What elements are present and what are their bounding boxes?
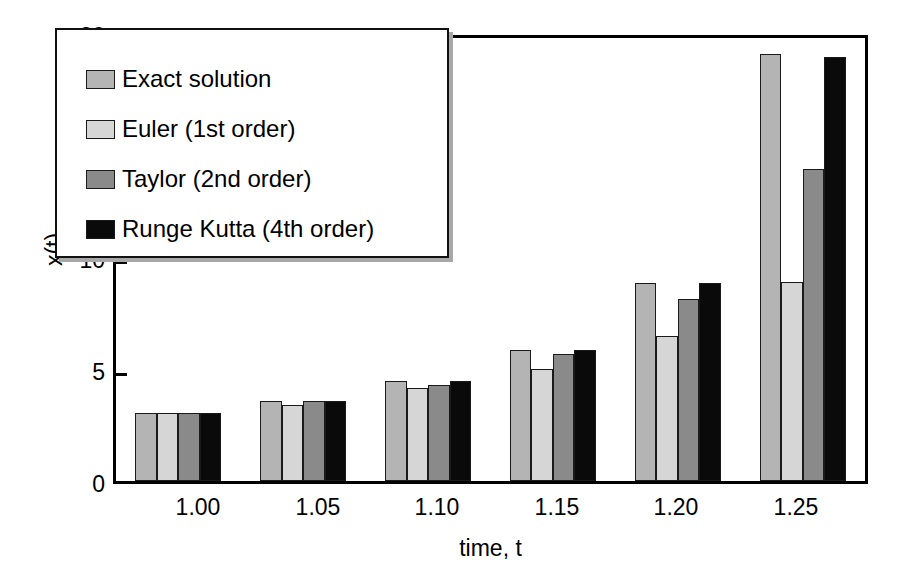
chart-legend: Exact solution Euler (1st order) Taylor …: [55, 28, 449, 258]
bar: [553, 354, 575, 481]
bar: [303, 401, 325, 481]
bar-group: [615, 38, 740, 481]
legend-label-runge-kutta: Runge Kutta (4th order): [122, 217, 374, 241]
legend-swatch-euler: [86, 120, 115, 139]
legend-item-euler: Euler (1st order): [86, 112, 295, 146]
bar: [678, 299, 700, 481]
bar: [450, 381, 472, 481]
legend-item-runge-kutta: Runge Kutta (4th order): [86, 212, 374, 246]
legend-label-euler: Euler (1st order): [122, 117, 295, 141]
bar: [428, 385, 450, 481]
legend-label-taylor: Taylor (2nd order): [122, 167, 311, 191]
x-tick-label-1: 1.00: [138, 494, 258, 521]
bar: [760, 54, 782, 481]
bar: [656, 336, 678, 481]
bar: [260, 401, 282, 481]
bar: [157, 413, 179, 481]
bar: [531, 369, 553, 481]
bar-group: [740, 38, 865, 481]
legend-item-exact-solution: Exact solution: [86, 62, 271, 96]
bar: [325, 401, 347, 481]
bar-group: [491, 38, 616, 481]
bar: [178, 413, 200, 481]
bar: [803, 169, 825, 481]
bar: [574, 350, 596, 481]
bar: [282, 405, 304, 481]
x-tick-label-5: 1.20: [616, 494, 736, 521]
bar: [510, 350, 532, 481]
bar: [200, 413, 222, 481]
x-tick-label-6: 1.25: [736, 494, 856, 521]
x-axis-title: time, t: [113, 535, 868, 562]
y-tick-label-0: 0: [59, 473, 105, 496]
bar: [135, 413, 157, 481]
bar: [635, 283, 657, 481]
x-tick-label-2: 1.05: [258, 494, 378, 521]
legend-swatch-runge-kutta: [86, 220, 115, 239]
bar-chart-figure: x(t) 0 5 10 15 20 Exact solution Euler (…: [0, 0, 907, 583]
legend-swatch-taylor: [86, 170, 115, 189]
bar: [781, 282, 803, 481]
bar: [824, 57, 846, 481]
x-tick-label-3: 1.10: [377, 494, 497, 521]
legend-swatch-exact-solution: [86, 70, 115, 89]
legend-label-exact-solution: Exact solution: [122, 67, 271, 91]
bar: [385, 381, 407, 481]
x-tick-label-4: 1.15: [497, 494, 617, 521]
legend-item-taylor: Taylor (2nd order): [86, 162, 311, 196]
bar: [699, 283, 721, 481]
y-tick-label-5: 5: [59, 361, 105, 384]
bar: [407, 388, 429, 481]
